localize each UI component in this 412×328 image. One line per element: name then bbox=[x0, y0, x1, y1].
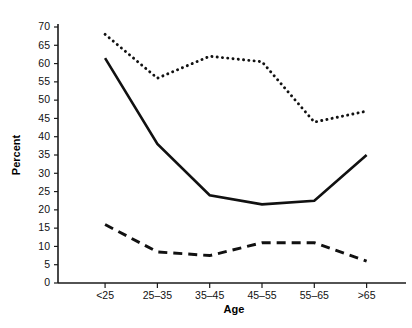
y-tick-label: 5 bbox=[44, 258, 50, 270]
y-tick-label: 10 bbox=[38, 240, 50, 252]
x-tick-label: 45–55 bbox=[247, 289, 276, 301]
y-tick-label: 60 bbox=[38, 57, 50, 69]
x-axis-ticks: <2525–3535–4545–5555–65>65 bbox=[96, 283, 376, 301]
x-tick-label: >65 bbox=[358, 289, 376, 301]
series-line-dotted bbox=[105, 34, 367, 122]
y-tick-label: 0 bbox=[44, 276, 50, 288]
x-tick-label: 25–35 bbox=[143, 289, 172, 301]
x-tick-label: 55–65 bbox=[300, 289, 329, 301]
y-tick-label: 20 bbox=[38, 203, 50, 215]
x-tick-label: <25 bbox=[96, 289, 114, 301]
y-tick-label: 50 bbox=[38, 93, 50, 105]
y-tick-label: 30 bbox=[38, 167, 50, 179]
y-tick-label: 55 bbox=[38, 75, 50, 87]
line-chart: 0510152025303540455055606570 <2525–3535–… bbox=[0, 0, 412, 328]
y-axis-ticks: 0510152025303540455055606570 bbox=[38, 20, 58, 288]
chart-container: 0510152025303540455055606570 <2525–3535–… bbox=[0, 0, 412, 328]
series-line-solid bbox=[105, 58, 367, 204]
y-tick-label: 35 bbox=[38, 148, 50, 160]
y-tick-label: 70 bbox=[38, 20, 50, 32]
y-tick-label: 45 bbox=[38, 112, 50, 124]
data-series-group bbox=[105, 34, 367, 261]
y-tick-label: 25 bbox=[38, 185, 50, 197]
series-line-dashed bbox=[105, 224, 367, 261]
y-tick-label: 15 bbox=[38, 221, 50, 233]
x-axis-title: Age bbox=[224, 303, 245, 315]
y-tick-label: 65 bbox=[38, 39, 50, 51]
y-tick-label: 40 bbox=[38, 130, 50, 142]
y-axis-title: Percent bbox=[10, 134, 22, 175]
x-tick-label: 35–45 bbox=[195, 289, 224, 301]
